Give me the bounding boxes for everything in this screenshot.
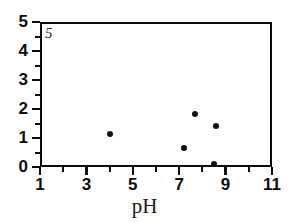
data-point — [107, 131, 113, 137]
y-tick-label: 0 — [2, 158, 28, 175]
scatter-plot-figure: 5 012345 1357911 pH — [0, 0, 289, 222]
data-point — [211, 161, 217, 167]
plot-data-area — [40, 22, 272, 167]
x-axis-title: pH — [0, 196, 289, 217]
data-point — [192, 111, 198, 117]
x-tick-minor — [155, 167, 157, 172]
y-tick-label: 4 — [2, 42, 28, 59]
x-tick-label: 11 — [252, 176, 289, 193]
x-tick-minor — [248, 167, 250, 172]
x-tick-major — [271, 167, 274, 175]
x-tick-major — [39, 167, 42, 175]
x-tick-major — [224, 167, 227, 175]
x-tick-label: 5 — [113, 176, 153, 193]
y-tick-major — [32, 137, 40, 140]
y-tick-label: 3 — [2, 71, 28, 88]
x-tick-major — [178, 167, 181, 175]
data-point — [213, 123, 219, 129]
y-tick-major — [32, 50, 40, 53]
y-tick-label: 1 — [2, 129, 28, 146]
x-tick-label: 9 — [206, 176, 246, 193]
x-tick-major — [132, 167, 135, 175]
x-tick-minor — [201, 167, 203, 172]
x-tick-label: 7 — [159, 176, 199, 193]
x-tick-label: 1 — [20, 176, 60, 193]
y-tick-major — [32, 79, 40, 82]
y-tick-label: 5 — [2, 13, 28, 30]
y-tick-label: 2 — [2, 100, 28, 117]
x-tick-minor — [62, 167, 64, 172]
y-tick-major — [32, 21, 40, 24]
x-tick-label: 3 — [66, 176, 106, 193]
data-point — [181, 145, 187, 151]
x-tick-major — [85, 167, 88, 175]
y-tick-major — [32, 108, 40, 111]
x-tick-minor — [109, 167, 111, 172]
